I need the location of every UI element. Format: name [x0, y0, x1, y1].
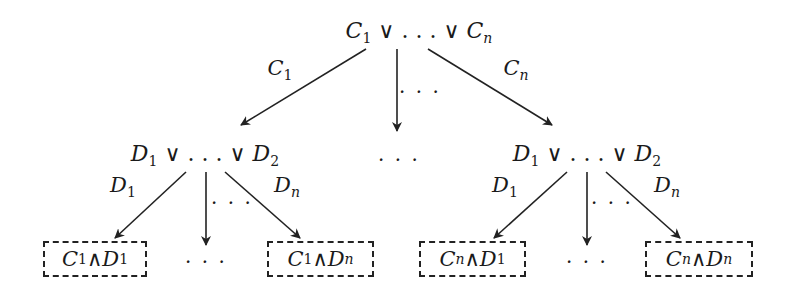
middle-node-ellipsis: · · ·	[378, 148, 420, 172]
edge-label-var: D	[274, 173, 291, 197]
root-var-c1: C	[346, 18, 363, 43]
edge-label-ellipsis-right: · · ·	[591, 191, 633, 215]
root-node: C1 ∨ . . . ∨ Cn	[346, 20, 493, 45]
sub: n	[345, 251, 354, 267]
root-var-cn: C	[467, 18, 484, 43]
conjunction: ∧	[691, 247, 706, 271]
var: D	[706, 247, 723, 271]
edge-label-right-d1: D1	[492, 175, 518, 199]
leaf-cn-and-dn: Cn ∧ Dn	[645, 241, 753, 277]
var: D	[102, 247, 119, 271]
leaf-ellipsis-left: · · ·	[185, 250, 227, 274]
edge-label-var: D	[492, 173, 509, 197]
edge-root-left	[241, 49, 366, 125]
sub: n	[455, 251, 464, 267]
sub: 1	[531, 153, 540, 169]
edge-root-right	[428, 49, 552, 125]
conjunction: ∧	[312, 247, 327, 271]
sub: 1	[303, 251, 312, 267]
edge-label-var: D	[110, 173, 127, 197]
sub: 2	[652, 153, 661, 169]
edge-label-sub: n	[520, 67, 529, 83]
conjunction: ∧	[87, 247, 102, 271]
edge-label-sub: n	[671, 184, 680, 200]
var: D	[480, 247, 497, 271]
edge-label-sub: n	[291, 184, 300, 200]
conjunction: ∧	[464, 247, 479, 271]
right-disjunction-node: D1 ∨ . . . ∨ D2	[513, 143, 661, 168]
var: D	[328, 247, 345, 271]
edge-label-var: C	[268, 56, 284, 80]
edge-label-sub: 1	[284, 67, 293, 83]
edge-label-ellipsis-root: · · ·	[399, 80, 441, 104]
disjunction: ∨ . . . ∨	[539, 141, 634, 166]
sub: n	[723, 251, 732, 267]
var-d2: D	[635, 141, 653, 166]
var-d2: D	[253, 141, 271, 166]
var: C	[287, 247, 303, 271]
edge-label-left-d1: D1	[110, 175, 136, 199]
sub: n	[682, 251, 691, 267]
leaf-cn-and-d1: Cn ∧ D1	[419, 241, 526, 277]
root-sub-n: n	[483, 30, 492, 46]
edge-label-left-dn: Dn	[274, 175, 300, 199]
disjunction: ∨ . . . ∨	[157, 141, 252, 166]
var: C	[439, 247, 455, 271]
left-disjunction-node: D1 ∨ . . . ∨ D2	[131, 143, 279, 168]
leaf-c1-and-dn: C1 ∧ Dn	[267, 241, 374, 277]
var-d1: D	[131, 141, 149, 166]
var: C	[666, 247, 682, 271]
edge-label-var: C	[503, 56, 519, 80]
root-sub-1: 1	[362, 30, 371, 46]
sub: 1	[497, 251, 506, 267]
leaf-c1-and-d1: C1 ∧ D1	[43, 241, 147, 277]
leaf-ellipsis-right: · · ·	[566, 250, 608, 274]
var: C	[62, 247, 78, 271]
edge-label-var: D	[654, 173, 671, 197]
var-d1: D	[513, 141, 531, 166]
edge-label-cn: Cn	[503, 58, 528, 82]
sub: 2	[270, 153, 279, 169]
root-disjunction: ∨ . . . ∨	[371, 18, 466, 43]
edge-label-sub: 1	[509, 184, 518, 200]
sub: 1	[78, 251, 87, 267]
sub: 1	[119, 251, 128, 267]
sub: 1	[149, 153, 158, 169]
edge-label-sub: 1	[127, 184, 136, 200]
edge-label-right-dn: Dn	[654, 175, 680, 199]
edge-label-c1: C1	[268, 58, 293, 82]
edge-label-ellipsis-left: · · ·	[211, 191, 253, 215]
